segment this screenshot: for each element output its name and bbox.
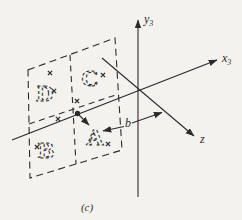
- x-marker-icon: [56, 117, 60, 121]
- x3-axis-label: x3: [221, 51, 231, 67]
- x-marker-icon: [101, 73, 105, 77]
- quadrant-letter-B: B: [38, 137, 54, 163]
- x-marker-icon: [48, 71, 52, 75]
- x-marker-icon: [106, 142, 110, 146]
- b-dimension-label: b: [125, 116, 131, 130]
- quadrant-letter-D: D: [36, 80, 53, 106]
- z-axis-label: z: [199, 132, 205, 146]
- x-marker-icon: [75, 99, 79, 103]
- coordinate-diagram: DCBA y3 x3 z b (c): [0, 0, 242, 220]
- quadrant-letters: DCBA: [36, 65, 104, 163]
- quadrant-letter-C: C: [81, 65, 98, 91]
- quadrant-letter-A: A: [86, 124, 104, 150]
- b-dimension: b: [103, 113, 162, 132]
- figure-caption: (c): [81, 201, 94, 214]
- y3-axis-label: y3: [143, 12, 153, 28]
- image-panel: DCBA: [28, 38, 122, 178]
- dot-to-A-arrow: [78, 114, 89, 125]
- b-arrow-to-z-axis: [132, 113, 162, 124]
- diagram-canvas: DCBA y3 x3 z b (c): [0, 0, 242, 220]
- z-axis: [102, 58, 194, 136]
